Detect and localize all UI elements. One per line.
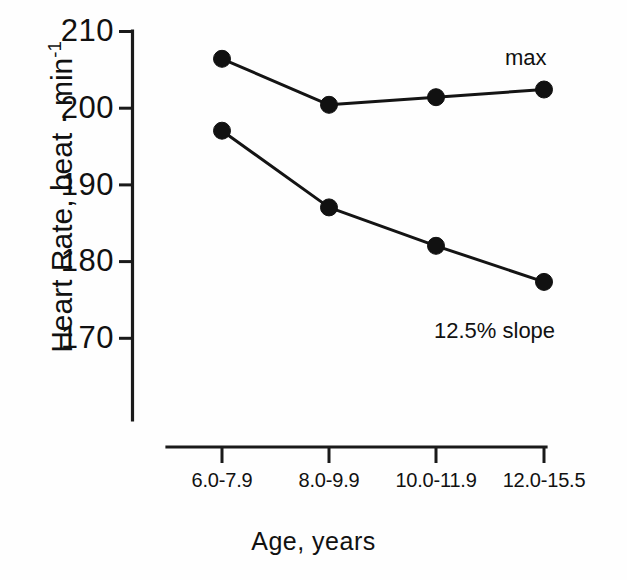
y-axis-title-text: Heart Rate, beat · min: [45, 58, 78, 353]
data-point-slope-2: [428, 237, 445, 254]
series-line-slope: [222, 131, 544, 282]
data-point-slope-3: [536, 273, 553, 290]
y-axis-title-exponent: -1: [44, 41, 65, 58]
y-axis-title: Heart Rate, beat · min-1: [47, 17, 77, 377]
data-point-slope-0: [214, 122, 231, 139]
series-line-max: [222, 59, 544, 105]
x-tick-label-0: 6.0-7.9: [162, 470, 282, 490]
data-point-max-1: [321, 96, 338, 113]
data-point-max-0: [214, 50, 231, 67]
data-point-max-2: [428, 89, 445, 106]
data-point-slope-1: [321, 199, 338, 216]
x-axis-title: Age, years: [0, 527, 627, 556]
x-tick-label-3: 12.0-15.5: [479, 470, 609, 490]
plot-area: [0, 0, 627, 580]
data-point-max-3: [536, 81, 553, 98]
chart-figure: 210 200 190 180 170 6.0-7.9 8.0-9.9 10.0…: [0, 0, 627, 580]
annotation-slope: 12.5% slope: [434, 320, 555, 342]
annotation-max: max: [505, 47, 547, 69]
